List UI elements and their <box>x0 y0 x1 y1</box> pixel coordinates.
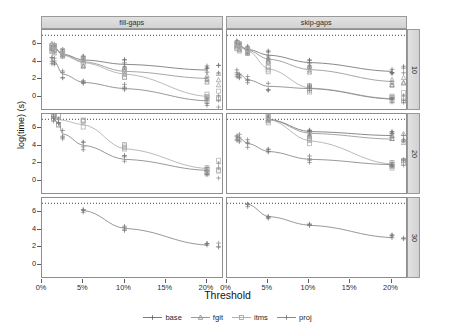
legend-key-itms <box>232 312 251 323</box>
series-line-fgit <box>52 47 207 79</box>
plot-figure: fill-gapsskip-gaps102030 log(time) (s) T… <box>0 0 455 336</box>
y-tick-label: 4 <box>14 225 36 233</box>
legend-label: base <box>165 313 181 322</box>
legend-key-base <box>143 312 162 323</box>
panel-skip-gaps-30 <box>226 197 408 278</box>
data-point <box>245 145 250 150</box>
data-point <box>401 75 405 79</box>
series-line-base <box>52 46 207 70</box>
data-point <box>401 236 406 241</box>
y-tick-mark <box>37 180 41 181</box>
x-tick-label: 10% <box>111 284 137 292</box>
legend-item-fgit: fgit <box>191 312 223 323</box>
legend-item-base: base <box>143 312 181 323</box>
legend-label: itms <box>254 313 268 322</box>
legend-item-itms: itms <box>232 312 268 323</box>
legend-key-fgit <box>191 312 210 323</box>
y-tick-label: 6 <box>14 207 36 215</box>
panel-fill-gaps-10 <box>41 29 223 110</box>
series-line-proj <box>52 61 207 101</box>
data-point <box>60 76 65 81</box>
series-line-itms <box>236 46 391 99</box>
x-tick-label: 15% <box>152 284 178 292</box>
x-tick-label: 15% <box>336 284 362 292</box>
legend: basefgititmsproj <box>0 307 455 327</box>
y-tick-mark <box>37 211 41 212</box>
data-point <box>401 80 405 84</box>
data-point <box>245 74 250 79</box>
series-line-proj <box>83 210 207 245</box>
legend-item-proj: proj <box>277 312 312 323</box>
y-tick-mark <box>37 145 41 146</box>
data-point <box>81 140 86 145</box>
data-point <box>216 176 221 181</box>
panel-fill-gaps-30 <box>41 197 223 278</box>
panel-skip-gaps-20 <box>226 113 408 194</box>
x-tick-label: 0% <box>28 284 54 292</box>
panel-skip-gaps-10 <box>226 29 408 110</box>
y-tick-label: 6 <box>14 123 36 131</box>
data-point <box>265 81 270 86</box>
data-point <box>205 64 210 69</box>
y-tick-mark <box>37 61 41 62</box>
y-tick-mark <box>37 162 41 163</box>
y-tick-mark <box>37 127 41 128</box>
row-strip-30: 30 <box>407 197 420 278</box>
data-point <box>307 58 312 63</box>
y-tick-label: 4 <box>14 141 36 149</box>
data-point <box>265 50 270 55</box>
series-line-base <box>236 45 391 72</box>
legend-label: fgit <box>213 313 223 322</box>
data-point <box>81 147 86 152</box>
data-point <box>123 75 127 79</box>
data-point <box>265 88 270 93</box>
series-line-proj <box>236 73 391 99</box>
x-tick-label: 5% <box>254 284 280 292</box>
series-line-proj <box>247 204 391 237</box>
panel-grid: fill-gapsskip-gaps102030 <box>41 16 420 278</box>
data-point <box>216 83 220 87</box>
series-line-fgit <box>236 45 391 81</box>
row-strip-20: 20 <box>407 113 420 194</box>
panel-fill-gaps-20 <box>41 113 223 194</box>
y-tick-label: 6 <box>14 39 36 47</box>
data-point <box>217 89 221 93</box>
column-strip-skip-gaps: skip-gaps <box>226 16 408 29</box>
x-tick-label: 5% <box>69 284 95 292</box>
x-tick-label: 10% <box>295 284 321 292</box>
data-point <box>234 68 239 73</box>
x-tick-label: 20% <box>378 284 404 292</box>
y-tick-label: 2 <box>14 242 36 250</box>
data-point <box>245 202 250 207</box>
series-line-base <box>268 119 392 135</box>
data-point <box>307 222 312 227</box>
data-point <box>216 105 221 109</box>
y-tick-mark <box>37 78 41 79</box>
y-tick-mark <box>37 229 41 230</box>
legend-key-proj <box>277 312 296 323</box>
series-line-fgit <box>268 119 392 139</box>
row-strip-10: 10 <box>407 29 420 110</box>
data-point <box>216 244 221 249</box>
column-strip-fill-gaps: fill-gaps <box>41 16 223 29</box>
series-line-itms <box>268 119 392 164</box>
y-tick-label: 4 <box>14 57 36 65</box>
series-line-proj <box>54 119 207 170</box>
y-tick-label: 0 <box>14 260 36 268</box>
y-tick-mark <box>37 43 41 44</box>
y-tick-label: 0 <box>14 92 36 100</box>
y-tick-mark <box>37 96 41 97</box>
data-point <box>389 233 394 238</box>
series-line-itms <box>54 119 207 168</box>
legend-label: proj <box>299 313 312 322</box>
y-tick-mark <box>37 264 41 265</box>
data-point <box>245 137 250 142</box>
y-tick-label: 2 <box>14 74 36 82</box>
data-point <box>122 57 127 62</box>
y-tick-label: 0 <box>14 176 36 184</box>
data-point <box>216 78 220 82</box>
data-point <box>81 125 85 129</box>
y-tick-mark <box>37 246 41 247</box>
data-point <box>81 207 86 212</box>
y-tick-label: 2 <box>14 158 36 166</box>
